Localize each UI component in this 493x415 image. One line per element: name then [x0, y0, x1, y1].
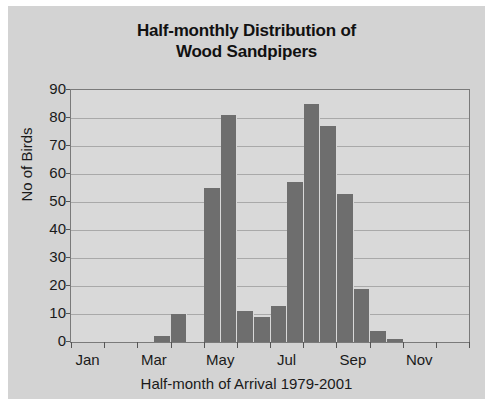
x-axis-label: Half-month of Arrival 1979-2001 [8, 375, 485, 392]
bar [370, 331, 387, 342]
x-axis-tick-label: May [206, 351, 234, 368]
x-axis-tick-mark [237, 342, 238, 348]
bar [287, 182, 304, 342]
x-axis-ticks [70, 342, 470, 349]
bar [171, 314, 188, 342]
bar [320, 126, 337, 342]
x-axis-tick-label: Nov [406, 351, 433, 368]
bar [237, 311, 254, 342]
y-axis-tick-label: 90 [32, 80, 66, 97]
bar [204, 188, 221, 342]
x-axis-tick-mark [370, 342, 371, 348]
y-axis-tick-label: 40 [32, 220, 66, 237]
bar [337, 194, 354, 342]
x-axis-tick-mark [71, 342, 72, 348]
x-axis-tick-mark [403, 342, 404, 348]
x-axis-tick-mark [204, 342, 205, 348]
x-axis-tick-mark [171, 342, 172, 348]
x-axis-tick-mark [336, 342, 337, 348]
bar [271, 306, 288, 342]
x-axis-tick-mark [469, 342, 470, 348]
x-axis-tick-mark [137, 342, 138, 348]
x-axis-tick-mark [104, 342, 105, 348]
bar-series [71, 90, 469, 342]
y-axis-tick-label: 60 [32, 164, 66, 181]
bar [354, 289, 371, 342]
chart-title: Half-monthly Distribution of Wood Sandpi… [8, 20, 485, 62]
x-axis-tick-label: Mar [141, 351, 167, 368]
chart-title-line-2: Wood Sandpipers [8, 41, 485, 62]
x-axis-tick-labels: JanMarMayJulSepNov [70, 351, 470, 371]
bar [221, 115, 238, 342]
x-axis-tick-label: Sep [340, 351, 367, 368]
x-axis-tick-mark [436, 342, 437, 348]
plot-area [70, 89, 470, 343]
y-axis-tick-label: 80 [32, 108, 66, 125]
x-axis-tick-mark [303, 342, 304, 348]
x-axis-tick-label: Jul [277, 351, 296, 368]
x-axis-tick-mark [270, 342, 271, 348]
y-axis-tick-label: 30 [32, 248, 66, 265]
chart-title-line-1: Half-monthly Distribution of [8, 20, 485, 41]
y-axis-tick-label: 10 [32, 304, 66, 321]
y-axis-label: No of Birds [18, 95, 35, 235]
y-axis-tick-label: 50 [32, 192, 66, 209]
y-axis-tick-label: 0 [32, 332, 66, 349]
x-axis-tick-label: Jan [75, 351, 99, 368]
chart-figure: Half-monthly Distribution of Wood Sandpi… [8, 6, 485, 399]
bar [304, 104, 321, 342]
bar [254, 317, 271, 342]
y-axis-tick-label: 20 [32, 276, 66, 293]
y-axis-tick-label: 70 [32, 136, 66, 153]
